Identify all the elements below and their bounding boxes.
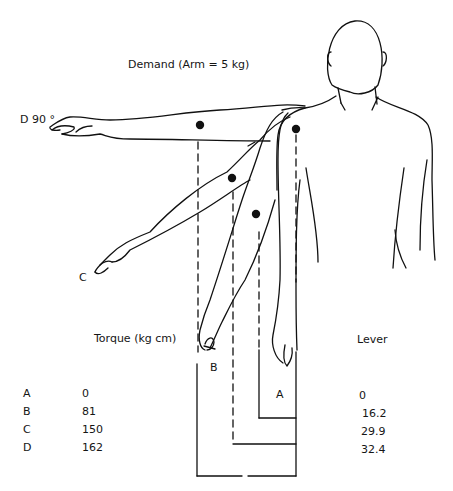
row-torque: 150 bbox=[82, 424, 103, 435]
position-label-c: C bbox=[79, 272, 87, 283]
row-lever: 32.4 bbox=[361, 444, 386, 455]
row-torque: 162 bbox=[82, 442, 103, 453]
row-key: A bbox=[23, 388, 31, 399]
arm-d-horizontal bbox=[50, 105, 305, 141]
row-key: C bbox=[23, 424, 31, 435]
row-key: B bbox=[23, 406, 31, 417]
arm-torque-diagram: Demand (Arm = 5 kg) D 90 ° C B A Torque … bbox=[0, 0, 453, 491]
table-row: D 162 32.4 bbox=[0, 442, 453, 460]
row-torque: 81 bbox=[82, 406, 96, 417]
table-row: C 150 29.9 bbox=[0, 424, 453, 442]
head-outline bbox=[327, 21, 386, 110]
position-label-d: D 90 ° bbox=[20, 114, 55, 125]
figure-title: Demand (Arm = 5 kg) bbox=[128, 59, 249, 70]
table-row: B 81 16.2 bbox=[0, 406, 453, 424]
torso-outline bbox=[277, 96, 435, 268]
row-torque: 0 bbox=[82, 388, 89, 399]
arm-b-forward bbox=[199, 112, 283, 350]
table-row: A 0 0 bbox=[0, 388, 453, 406]
row-lever: 16.2 bbox=[362, 408, 387, 419]
row-lever: 0 bbox=[359, 390, 366, 401]
row-key: D bbox=[23, 442, 31, 453]
lever-header: Lever bbox=[357, 334, 388, 345]
mass-center-dots bbox=[196, 121, 300, 218]
torque-header: Torque (kg cm) bbox=[94, 333, 176, 344]
row-lever: 29.9 bbox=[361, 426, 386, 437]
position-label-b: B bbox=[210, 362, 218, 373]
